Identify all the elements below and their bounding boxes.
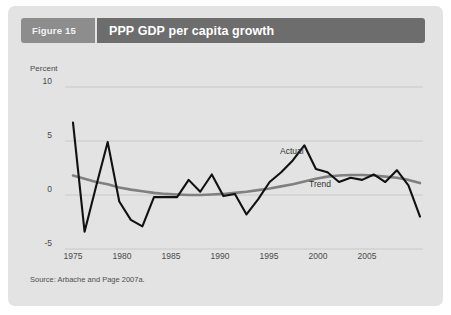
- y-axis-unit-label: Percent: [30, 64, 58, 73]
- x-tick-label-1980: 1980: [104, 251, 140, 261]
- series-line-actual: [73, 123, 420, 232]
- series-lines-group: [73, 123, 420, 232]
- x-tick-label-1985: 1985: [153, 251, 189, 261]
- y-tick-label-10: 10: [30, 76, 52, 86]
- series-annotation-trend: Trend: [309, 179, 331, 189]
- figure-source-note: Source: Arbache and Page 2007a.: [30, 275, 145, 284]
- x-tick-label-1975: 1975: [55, 251, 91, 261]
- series-annotation-actual: Actual: [280, 146, 304, 156]
- x-tick-label-1990: 1990: [202, 251, 238, 261]
- gridlines-group: [65, 87, 423, 249]
- x-tick-label-2005: 2005: [349, 251, 385, 261]
- figure-panel: Figure 15 PPP GDP per capita growth Perc…: [8, 6, 443, 306]
- y-tick-label-neg5: -5: [30, 238, 52, 248]
- x-tick-label-2000: 2000: [300, 251, 336, 261]
- y-tick-label-5: 5: [30, 130, 52, 140]
- y-tick-label-0: 0: [30, 184, 52, 194]
- chart-canvas: Percent 10 5 0 -5 1975 1980 1985 1990 19…: [8, 6, 443, 306]
- x-tick-label-1995: 1995: [251, 251, 287, 261]
- plot-svg: [8, 6, 443, 306]
